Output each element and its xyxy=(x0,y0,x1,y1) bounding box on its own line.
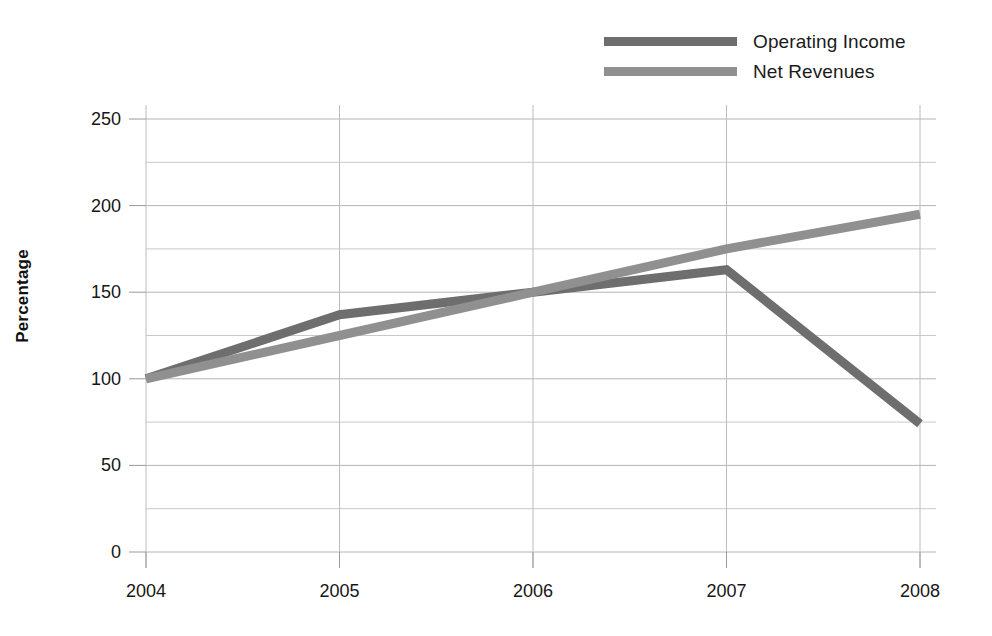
x-tick-label: 2004 xyxy=(101,582,191,600)
x-axis-ticks xyxy=(146,552,920,568)
y-tick-label: 150 xyxy=(61,283,121,301)
y-tick-label: 200 xyxy=(61,197,121,215)
y-tick-label: 100 xyxy=(61,370,121,388)
plot-area xyxy=(0,0,992,636)
x-tick-label: 2006 xyxy=(488,582,578,600)
y-tick-label: 50 xyxy=(61,456,121,474)
y-axis-ticks xyxy=(129,119,146,552)
y-tick-label: 250 xyxy=(61,110,121,128)
x-tick-label: 2007 xyxy=(682,582,772,600)
x-tick-label: 2008 xyxy=(875,582,965,600)
line-chart: Operating Income Net Revenues Percentage… xyxy=(0,0,992,636)
x-tick-label: 2005 xyxy=(295,582,385,600)
y-tick-label: 0 xyxy=(61,543,121,561)
